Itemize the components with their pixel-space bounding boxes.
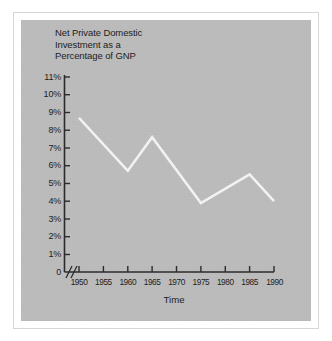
plot-svg: [21, 20, 311, 321]
ytick-label-4: 4%: [31, 197, 61, 206]
ytick-label-9: 9%: [31, 108, 61, 117]
xtick-label-1985: 1985: [237, 278, 263, 287]
x-axis-title: Time: [134, 295, 214, 305]
ytick-label-1: 1%: [31, 250, 61, 259]
ytick-label-5: 5%: [31, 179, 61, 188]
ytick-label-6: 6%: [31, 161, 61, 170]
xtick-label-1960: 1960: [115, 278, 141, 287]
data-line-series: [79, 118, 274, 203]
figure-root: Net Private Domestic Investment as a Per…: [0, 0, 332, 341]
xtick-label-1955: 1955: [90, 278, 116, 287]
x-tick-marks: [79, 266, 274, 272]
chart-panel: Net Private Domestic Investment as a Per…: [21, 20, 311, 321]
ytick-label-7: 7%: [31, 144, 61, 153]
y-tick-marks: [65, 77, 71, 255]
ytick-label-0: 0: [31, 268, 61, 277]
plot-area: 11% 10% 9% 8% 7% 6% 5% 4% 3% 2% 1% 0 195…: [21, 20, 311, 321]
ytick-label-2: 2%: [31, 232, 61, 241]
ytick-label-3: 3%: [31, 215, 61, 224]
xtick-label-1975: 1975: [188, 278, 214, 287]
ytick-label-11: 11%: [31, 73, 61, 82]
xtick-label-1970: 1970: [164, 278, 190, 287]
xtick-label-1980: 1980: [212, 278, 238, 287]
ytick-label-10: 10%: [31, 90, 61, 99]
xtick-label-1965: 1965: [139, 278, 165, 287]
ytick-label-8: 8%: [31, 126, 61, 135]
xtick-label-1990: 1990: [262, 278, 288, 287]
xtick-label-1950: 1950: [66, 278, 92, 287]
